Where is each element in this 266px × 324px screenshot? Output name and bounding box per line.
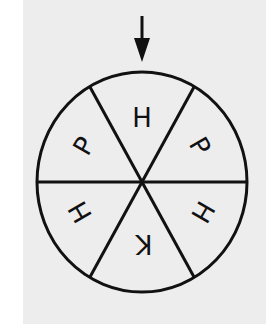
section-label-upper-right: P <box>183 132 217 161</box>
section-label-lower-left: H <box>62 196 98 228</box>
section-label-lower-right: H <box>185 196 221 228</box>
section-label-upper-left: P <box>67 132 101 161</box>
section-label-top: H <box>132 103 152 133</box>
section-label-bottom: K <box>135 229 153 259</box>
arrow-down-icon <box>134 16 150 62</box>
spinner-diagram: H P H K H P <box>0 0 266 324</box>
